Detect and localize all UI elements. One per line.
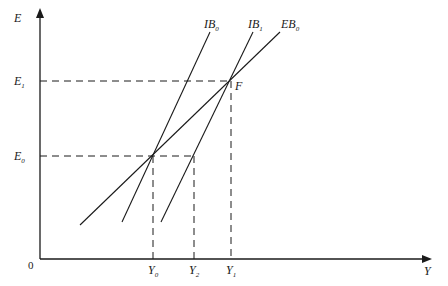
diagram-canvas: IB0 IB1 EB0 F E Y 0 E1 E0 Y0 Y2 Y1 [0, 0, 448, 286]
tick-e0: E0 [13, 149, 25, 165]
curve-ib1 [161, 32, 253, 222]
label-eb0: EB0 [280, 17, 300, 33]
tick-y0: Y0 [148, 263, 159, 279]
curve-eb0 [80, 32, 280, 225]
tick-e1: E1 [13, 74, 25, 90]
point-f-label: F [234, 79, 243, 93]
label-ib0: IB0 [203, 17, 219, 33]
x-axis-label: Y [424, 264, 432, 278]
curve-ib0 [122, 32, 210, 222]
origin-label: 0 [28, 259, 34, 271]
y-axis-arrow-icon [36, 8, 44, 18]
label-ib1: IB1 [247, 17, 263, 33]
tick-y2: Y2 [189, 263, 200, 279]
x-axis-arrow-icon [422, 255, 432, 263]
y-axis-label: E [13, 11, 22, 25]
tick-y1: Y1 [226, 263, 236, 279]
